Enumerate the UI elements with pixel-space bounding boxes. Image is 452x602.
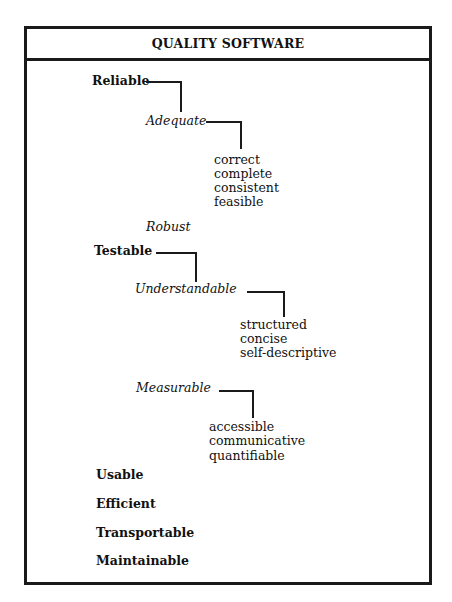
leaf-quantifiable: quantifiable [209, 449, 285, 464]
connector-reliable-v [180, 81, 182, 112]
connector-testable-h [156, 252, 197, 254]
quality-software-box: QUALITY SOFTWARE [24, 26, 432, 585]
connector-understandable-v [283, 291, 285, 317]
connector-reliable-h [146, 81, 181, 83]
node-reliable: Reliable [92, 73, 149, 88]
connector-understandable-h [247, 291, 285, 293]
diagram-header: QUALITY SOFTWARE [27, 29, 429, 61]
connector-adequate-h [206, 121, 241, 123]
node-adequate: Adequate [146, 113, 206, 128]
node-understandable: Understandable [135, 281, 237, 296]
connector-testable-v [195, 252, 197, 282]
node-maintainable: Maintainable [96, 553, 189, 568]
leaf-communicative: communicative [209, 434, 305, 449]
leaf-feasible: feasible [214, 195, 263, 210]
node-usable: Usable [96, 467, 143, 482]
node-measurable: Measurable [136, 380, 211, 395]
connector-adequate-v [240, 121, 242, 149]
node-transportable: Transportable [96, 525, 194, 540]
diagram-title: QUALITY SOFTWARE [152, 36, 304, 51]
node-efficient: Efficient [96, 496, 156, 511]
leaf-self-descriptive: self-descriptive [240, 346, 336, 361]
node-testable: Testable [94, 243, 152, 258]
node-robust: Robust [146, 219, 190, 234]
connector-measurable-v [252, 390, 254, 418]
connector-measurable-h [219, 390, 254, 392]
